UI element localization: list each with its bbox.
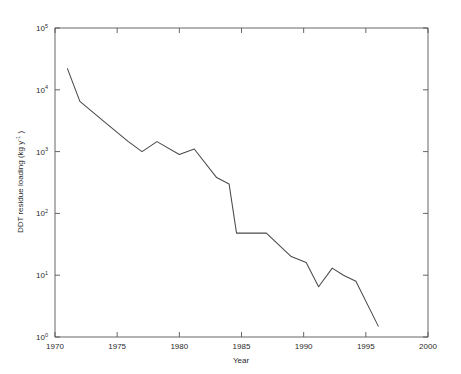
y-axis-title-main: DDT residue loading (kg y bbox=[16, 141, 25, 233]
x-tick-label: 1995 bbox=[357, 342, 375, 351]
x-tick-label: 1990 bbox=[295, 342, 313, 351]
chart-background bbox=[0, 0, 461, 374]
x-tick-label: 1985 bbox=[233, 342, 251, 351]
y-axis-title: DDT residue loading (kg y-1 ) bbox=[15, 131, 25, 233]
ddt-residue-loading-line-chart: 100101102103104105 197019751980198519901… bbox=[0, 0, 461, 374]
chart-figure: 100101102103104105 197019751980198519901… bbox=[0, 0, 461, 374]
x-tick-label: 1975 bbox=[108, 342, 126, 351]
x-axis-title: Year bbox=[233, 356, 250, 365]
y-axis-title-tail: ) bbox=[16, 131, 25, 136]
x-tick-label: 1970 bbox=[46, 342, 64, 351]
x-tick-label: 1980 bbox=[170, 342, 188, 351]
y-axis-title-group: DDT residue loading (kg y-1 ) bbox=[15, 131, 25, 233]
x-tick-label: 2000 bbox=[419, 342, 437, 351]
